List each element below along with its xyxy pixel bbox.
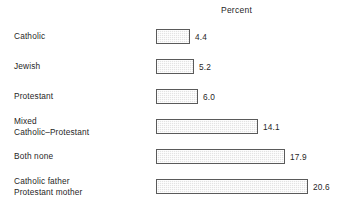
bar-category-label: Jewish: [14, 52, 150, 82]
bar-track: 20.6: [156, 172, 349, 202]
bar-row: MixedCatholic–Protestant14.1: [0, 112, 349, 142]
bar-category-label: Catholic: [14, 22, 150, 52]
chart-title-text: Percent: [221, 5, 252, 15]
bar-row: Protestant6.0: [0, 82, 349, 112]
bar-category-label-line: Catholic: [14, 31, 150, 42]
bar-row: Catholic fatherProtestant mother20.6: [0, 172, 349, 202]
bar-category-label: Catholic fatherProtestant mother: [14, 172, 150, 202]
bar-track: 5.2: [156, 52, 349, 82]
bar-category-label: Protestant: [14, 82, 150, 112]
bar-rect: [156, 119, 258, 134]
bar-track: 14.1: [156, 112, 349, 142]
bar-value-label: 6.0: [203, 82, 215, 112]
bar-track: 4.4: [156, 22, 349, 52]
bar-category-label-line: Catholic–Protestant: [14, 127, 150, 138]
bar-rect: [156, 179, 308, 194]
bar-category-label-line: Protestant: [14, 91, 150, 102]
bar-category-label-line: Jewish: [14, 61, 150, 72]
bar-rect: [156, 29, 190, 44]
bar-track: 17.9: [156, 142, 349, 172]
bar-category-label: MixedCatholic–Protestant: [14, 112, 150, 142]
bar-rect: [156, 149, 285, 164]
bar-category-label-line: Catholic father: [14, 176, 150, 187]
bar-value-label: 5.2: [199, 52, 211, 82]
bar-value-label: 17.9: [290, 142, 307, 172]
bar-category-label-line: Both none: [14, 151, 150, 162]
bar-row: Catholic4.4: [0, 22, 349, 52]
bar-rect: [156, 59, 194, 74]
bar-chart: Percent Catholic4.4Jewish5.2Protestant6.…: [0, 0, 349, 215]
bar-category-label-line: Protestant mother: [14, 187, 150, 198]
bar-category-label: Both none: [14, 142, 150, 172]
bar-track: 6.0: [156, 82, 349, 112]
bar-rect: [156, 89, 198, 104]
bar-value-label: 20.6: [313, 172, 330, 202]
bar-row: Both none17.9: [0, 142, 349, 172]
plot-area: Catholic4.4Jewish5.2Protestant6.0MixedCa…: [0, 22, 349, 215]
chart-title: Percent: [0, 5, 349, 15]
bar-value-label: 4.4: [195, 22, 207, 52]
bar-row: Jewish5.2: [0, 52, 349, 82]
bar-category-label-line: Mixed: [14, 116, 150, 127]
bar-value-label: 14.1: [263, 112, 280, 142]
